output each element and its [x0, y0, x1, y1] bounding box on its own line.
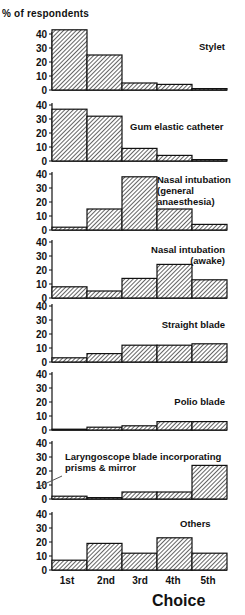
- bar-4th: [157, 209, 192, 230]
- bar-3rd: [122, 148, 157, 161]
- bar-5th: [192, 224, 227, 230]
- y-tick-label: 0: [41, 494, 47, 505]
- y-tick-label: 0: [41, 565, 47, 576]
- bar-3rd: [122, 177, 157, 230]
- bar-1st: [52, 358, 87, 362]
- y-tick-label: 40: [36, 369, 48, 380]
- y-tick-label: 20: [36, 537, 48, 548]
- bar-3rd: [122, 553, 157, 570]
- y-tick-label: 30: [36, 315, 48, 326]
- bar-5th: [192, 465, 227, 499]
- bar-4th: [157, 264, 192, 298]
- y-tick-label: 20: [36, 128, 48, 139]
- panel-2: 010203040Gum elastic catheter: [36, 100, 227, 167]
- x-tick-label: 5th: [201, 575, 216, 586]
- y-tick-label: 30: [36, 452, 48, 463]
- bar-2nd: [87, 55, 122, 90]
- bar-3rd: [122, 83, 157, 90]
- y-tick-label: 10: [36, 279, 48, 290]
- bar-4th: [157, 538, 192, 570]
- bar-1st: [52, 227, 87, 230]
- bar-1st: [52, 429, 87, 430]
- bar-3rd: [122, 345, 157, 362]
- bar-1st: [52, 496, 87, 499]
- bar-2nd: [87, 498, 122, 499]
- panel-6: 010203040Polio blade: [36, 369, 227, 436]
- y-tick-label: 30: [36, 383, 48, 394]
- bar-1st: [52, 287, 87, 298]
- y-tick-label: 30: [36, 523, 48, 534]
- bar-2nd: [87, 291, 122, 298]
- panel-label: Nasal intubation: [157, 174, 231, 185]
- y-tick-label: 40: [36, 301, 48, 312]
- x-axis-label: Choice: [152, 592, 205, 610]
- y-tick-label: 10: [36, 211, 48, 222]
- y-tick-label: 0: [41, 85, 47, 96]
- y-tick-label: 40: [36, 169, 48, 180]
- bar-3rd: [122, 426, 157, 430]
- y-tick-label: 0: [41, 225, 47, 236]
- x-tick-label: 4th: [166, 575, 181, 586]
- y-tick-label: 40: [36, 438, 48, 449]
- bar-5th: [192, 344, 227, 362]
- bar-5th: [192, 89, 227, 90]
- y-tick-label: 20: [36, 466, 48, 477]
- x-tick-label: 3rd: [132, 575, 148, 586]
- panel-label: (awake): [190, 255, 225, 266]
- bar-2nd: [87, 354, 122, 362]
- panel-label: Laryngoscope blade incorporating: [65, 451, 221, 462]
- bar-2nd: [87, 209, 122, 230]
- bar-1st: [52, 560, 87, 570]
- bar-5th: [192, 553, 227, 570]
- bar-3rd: [122, 492, 157, 499]
- panel-3: 010203040Nasal intubation(generalanaesth…: [36, 169, 231, 236]
- y-tick-label: 40: [36, 509, 48, 520]
- panel-label: prisms & mirror: [65, 462, 137, 473]
- panel-label: Straight blade: [162, 319, 225, 330]
- y-tick-label: 40: [36, 237, 48, 248]
- panel-8: 010203040Others: [36, 509, 227, 576]
- panel-label: Gum elastic catheter: [130, 121, 224, 132]
- x-tick-label: 1st: [60, 575, 75, 586]
- y-tick-label: 30: [36, 183, 48, 194]
- y-tick-label: 20: [36, 265, 48, 276]
- bar-5th: [192, 422, 227, 430]
- bar-5th: [192, 280, 227, 298]
- y-tick-label: 10: [36, 343, 48, 354]
- panel-7: 010203040Laryngoscope blade incorporatin…: [36, 438, 227, 505]
- bar-4th: [157, 155, 192, 161]
- panel-label: Stylet: [199, 41, 226, 52]
- y-tick-label: 10: [36, 71, 48, 82]
- bar-5th: [192, 160, 227, 161]
- y-tick-label: 40: [36, 100, 48, 111]
- panel-4: 010203040Nasal intubation(awake): [36, 237, 227, 304]
- y-tick-label: 10: [36, 142, 48, 153]
- panel-label: anaesthesia): [157, 196, 215, 207]
- y-tick-label: 30: [36, 251, 48, 262]
- bar-2nd: [87, 543, 122, 570]
- y-tick-label: 20: [36, 397, 48, 408]
- y-tick-label: 30: [36, 114, 48, 125]
- y-tick-label: 20: [36, 329, 48, 340]
- panel-label: Nasal intubation: [151, 244, 225, 255]
- panel-1: 010203040Stylet: [36, 29, 227, 96]
- y-tick-label: 0: [41, 156, 47, 167]
- y-tick-label: 40: [36, 29, 48, 40]
- x-tick-label: 2nd: [97, 575, 115, 586]
- panel-5: 010203040Straight blade: [36, 301, 227, 368]
- bar-1st: [52, 109, 87, 161]
- bar-4th: [157, 84, 192, 90]
- y-tick-label: 0: [41, 425, 47, 436]
- bar-4th: [157, 422, 192, 430]
- bar-2nd: [87, 427, 122, 430]
- y-tick-label: 10: [36, 411, 48, 422]
- panel-label: Others: [180, 518, 211, 529]
- bar-1st: [52, 30, 87, 90]
- bar-2nd: [87, 116, 122, 161]
- y-tick-label: 10: [36, 551, 48, 562]
- panel-label: (general: [157, 185, 194, 196]
- y-tick-label: 20: [36, 197, 48, 208]
- small-multiples-histogram: 010203040Stylet010203040Gum elastic cath…: [0, 0, 245, 615]
- panel-label: Polio blade: [174, 396, 225, 407]
- bar-4th: [157, 345, 192, 362]
